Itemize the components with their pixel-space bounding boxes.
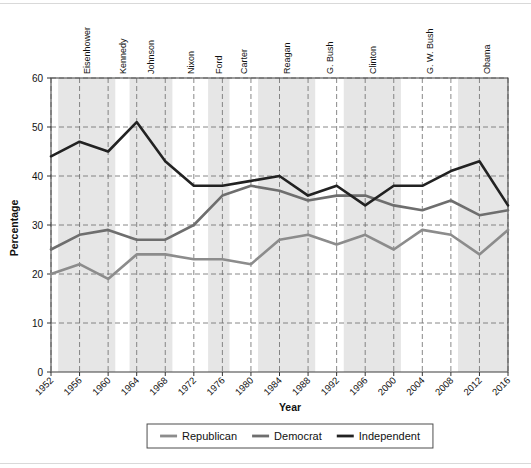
x-tick-label: 1960 — [90, 375, 113, 398]
x-tick-label: 1984 — [261, 375, 284, 398]
y-tick-label: 10 — [32, 318, 44, 329]
president-label: Nixon — [186, 51, 196, 74]
x-tick-label: 1952 — [33, 375, 56, 398]
x-axis-title: Year — [279, 401, 301, 413]
president-label: Clinton — [368, 46, 378, 74]
president-label: Ford — [214, 55, 224, 74]
legend-label-republican: Republican — [182, 430, 237, 442]
x-tick-label: 2000 — [375, 375, 398, 398]
y-tick-label: 60 — [32, 73, 44, 84]
x-tick-label: 2012 — [461, 375, 484, 398]
legend-label-independent: Independent — [359, 430, 420, 442]
x-axis-ticks: 1952195619601964196819721976198019841988… — [33, 372, 513, 397]
x-tick-label: 1992 — [318, 375, 341, 398]
legend-label-democrat: Democrat — [274, 430, 322, 442]
y-tick-label: 50 — [32, 122, 44, 133]
chart-legend: RepublicanDemocratIndependent — [147, 424, 433, 448]
president-label: G. W. Bush — [425, 28, 435, 74]
president-label: Carter — [239, 49, 249, 74]
x-tick-label: 1968 — [147, 375, 170, 398]
president-label: Reagan — [282, 42, 292, 74]
x-tick-label: 1980 — [233, 375, 256, 398]
x-tick-label: 2016 — [490, 375, 513, 398]
figure-container: 0102030405060 19521956196019641968197219… — [0, 0, 531, 468]
x-tick-label: 1964 — [118, 375, 141, 398]
x-tick-label: 1972 — [175, 375, 198, 398]
y-tick-label: 30 — [32, 220, 44, 231]
president-label: G. Bush — [325, 41, 335, 74]
y-tick-label: 40 — [32, 171, 44, 182]
x-tick-label: 1988 — [290, 375, 313, 398]
x-tick-label: 2008 — [433, 375, 456, 398]
president-label: Johnson — [146, 40, 156, 74]
president-label: Obama — [482, 44, 492, 74]
president-label: Kennedy — [118, 38, 128, 74]
x-tick-label: 2004 — [404, 375, 427, 398]
president-label: Eisenhower — [82, 27, 92, 74]
party-identification-line-chart: 0102030405060 19521956196019641968197219… — [0, 0, 531, 468]
y-tick-label: 20 — [32, 269, 44, 280]
y-tick-label: 0 — [37, 367, 43, 378]
president-labels: EisenhowerKennedyJohnsonNixonFordCarterR… — [82, 27, 492, 74]
y-axis-ticks: 0102030405060 — [32, 73, 51, 378]
x-tick-label: 1956 — [61, 375, 84, 398]
y-axis-title: Percentage — [8, 200, 20, 257]
x-tick-label: 1996 — [347, 375, 370, 398]
x-tick-label: 1976 — [204, 375, 227, 398]
